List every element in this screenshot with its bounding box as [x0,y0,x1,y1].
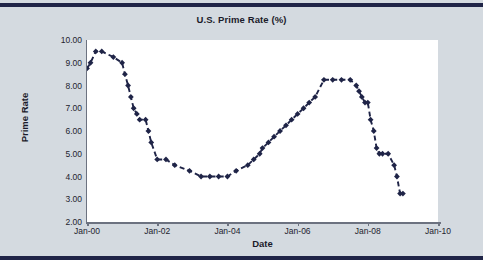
x-axis-tick-mark [298,222,300,226]
y-axis-title: Prime Rate [19,63,30,173]
top-rule-divider [0,3,483,7]
x-axis-tick-mark [87,222,89,226]
data-point-marker [371,128,377,134]
data-point-marker [339,77,345,83]
data-point-marker [385,151,391,157]
y-axis-tick-label: 7.00 [44,103,82,113]
data-point-marker [216,174,222,180]
data-point-marker [146,128,152,134]
y-axis-tick-label: 8.00 [44,81,82,91]
prime-rate-series [87,40,438,222]
data-point-marker [122,71,128,77]
data-point-marker [391,162,397,168]
x-axis-tick-mark [157,222,159,226]
data-point-marker [233,168,239,174]
x-axis-tick-mark [227,222,229,226]
y-axis-tick-label: 5.00 [44,149,82,159]
x-axis-tick-mark [368,222,370,226]
series-line-path [87,51,403,193]
data-point-marker [207,174,213,180]
chart-title: U.S. Prime Rate (%) [0,14,483,25]
y-axis-tick-label: 4.00 [44,172,82,182]
bottom-rule-divider [0,256,483,260]
y-axis-tick-labels: 2.003.004.005.006.007.008.009.0010.00 [44,40,82,222]
x-axis-tick-label: Jan-10 [425,226,451,236]
data-point-marker [93,48,99,54]
data-point-marker [137,117,143,123]
y-axis-tick-label: 6.00 [44,126,82,136]
x-axis-title: Date [87,238,438,249]
plot-area [87,40,438,222]
x-axis-tick-mark [438,222,440,226]
data-point-marker [131,105,137,111]
data-point-marker [380,151,386,157]
x-axis-tick-label: Jan-08 [355,226,381,236]
x-axis-tick-label: Jan-06 [285,226,311,236]
data-point-marker [394,174,400,180]
x-axis-tick-label: Jan-02 [144,226,170,236]
data-point-marker [321,77,327,83]
data-point-marker [368,117,374,123]
y-axis-tick-label: 10.00 [44,35,82,45]
data-point-marker [128,94,134,100]
data-point-marker [374,145,380,151]
data-point-marker [154,157,160,163]
data-point-marker [125,83,131,89]
data-point-marker [143,117,149,123]
chart-figure: U.S. Prime Rate (%) 2.003.004.005.006.00… [0,0,483,272]
x-axis-tick-label: Jan-04 [214,226,240,236]
x-axis-tick-label: Jan-00 [74,226,100,236]
series-marker-group [87,48,406,196]
data-point-marker [330,77,336,83]
y-axis-tick-label: 3.00 [44,194,82,204]
data-point-marker [148,139,154,145]
y-axis-tick-label: 9.00 [44,58,82,68]
